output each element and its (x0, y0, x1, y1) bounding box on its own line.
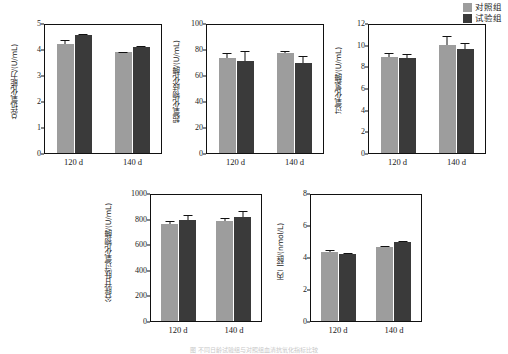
y-axis-label-total-antioxidant-capacity: 总抗氧化能力/(U/mL) (6, 8, 22, 154)
bars-container (311, 195, 421, 321)
y-tick-label: 12 (357, 20, 365, 28)
error-bar (347, 253, 348, 254)
error-bar (83, 34, 84, 35)
error-bar (407, 54, 408, 58)
y-tick-label: 1000 (131, 190, 147, 198)
error-bar (224, 218, 225, 222)
bars-container (45, 25, 161, 153)
error-bar (123, 52, 124, 53)
bar-wrapper (237, 25, 254, 153)
y-axis-label-text: 谷胱甘肽过氧化物酶/(U/mL) (103, 203, 114, 302)
plot-area-superoxide-dismutase (206, 24, 324, 154)
plot-area-malondialdehyde (310, 194, 422, 322)
y-tick-label: 20 (195, 124, 203, 132)
figure-caption: 图 不同日龄试验组与对照组血清抗氧化指标比较 (0, 345, 508, 354)
error-bar (141, 46, 142, 47)
x-tick-label: 120 d (226, 157, 245, 167)
x-tick-label: 140 d (123, 157, 142, 167)
bar-wrapper (161, 195, 178, 321)
plot-area-total-antioxidant-capacity (44, 24, 162, 154)
y-axis-ticks-superoxide-dismutase: 020406080100 (184, 24, 206, 154)
chart-panel-total-antioxidant-capacity: 总抗氧化能力/(U/mL)012345120 d140 d (6, 8, 164, 176)
x-tick-label: 120 d (328, 325, 347, 335)
x-tick-label: 140 d (285, 157, 304, 167)
y-axis-label-text: 丙二醛/(nmol/L) (275, 223, 286, 280)
x-tick-label: 120 d (168, 325, 187, 335)
bar-wrapper (57, 25, 74, 153)
bar-group (381, 25, 416, 153)
error-bar (242, 211, 243, 217)
error-bar (187, 215, 188, 220)
bar-wrapper (321, 195, 338, 321)
bar-total-antioxidant-capacity-test (75, 35, 92, 153)
bar-group (216, 195, 251, 321)
bar-group (219, 25, 254, 153)
bar-catalase-control (381, 57, 398, 153)
antioxidant-index-figure: 对照组试验组 总抗氧化能力/(U/mL)012345120 d140 d超氧化物… (0, 0, 508, 354)
x-axis-labels-malondialdehyde: 120 d140 d (310, 325, 422, 335)
bar-wrapper (75, 25, 92, 153)
bar-group (321, 195, 356, 321)
bar-wrapper (457, 25, 474, 153)
x-axis-labels-superoxide-dismutase: 120 d140 d (206, 157, 324, 167)
bars-container (207, 25, 323, 153)
bar-wrapper (133, 25, 150, 153)
plot-area-glutathione-peroxidase (150, 194, 262, 322)
bar-wrapper (216, 195, 233, 321)
error-bar (169, 221, 170, 224)
y-axis-ticks-glutathione-peroxidase: 02004006008001000 (128, 194, 150, 322)
chart-panel-catalase: 过氧化氢酶/(U/mL)024681012120 d140 d (330, 8, 502, 176)
error-bar (447, 36, 448, 45)
bar-group (376, 195, 411, 321)
bar-group (439, 25, 474, 153)
y-tick-label: 600 (135, 241, 147, 249)
y-axis-label-superoxide-dismutase: 超氧化物歧化酶/(U/mL) (168, 8, 184, 154)
x-axis-labels-catalase: 120 d140 d (368, 157, 486, 167)
x-axis-labels-glutathione-peroxidase: 120 d140 d (150, 325, 262, 335)
bar-catalase-test (457, 49, 474, 153)
error-bar (303, 56, 304, 64)
x-tick-label: 140 d (384, 325, 403, 335)
x-tick-label: 140 d (224, 325, 243, 335)
bar-total-antioxidant-capacity-test (133, 47, 150, 153)
y-axis-label-catalase: 过氧化氢酶/(U/mL) (330, 8, 346, 154)
bar-group (161, 195, 196, 321)
y-tick-label: 60 (195, 72, 203, 80)
error-bar (329, 250, 330, 251)
y-tick-label: 200 (135, 292, 147, 300)
y-tick-label: 100 (191, 20, 203, 28)
bar-wrapper (399, 25, 416, 153)
bar-malondialdehyde-control (376, 247, 393, 321)
bar-total-antioxidant-capacity-control (57, 44, 74, 153)
chart-panel-malondialdehyde: 丙二醛/(nmol/L)02468120 d140 d (272, 182, 432, 348)
error-bar (65, 40, 66, 43)
x-axis-labels-total-antioxidant-capacity: 120 d140 d (44, 157, 162, 167)
bar-catalase-test (399, 58, 416, 153)
bar-malondialdehyde-control (321, 252, 338, 321)
y-axis-label-text: 超氧化物歧化酶/(U/mL) (171, 40, 182, 123)
y-axis-label-glutathione-peroxidase: 谷胱甘肽过氧化物酶/(U/mL) (100, 182, 116, 322)
bar-wrapper (439, 25, 456, 153)
bar-wrapper (376, 195, 393, 321)
y-axis-label-text: 总抗氧化能力/(U/mL) (9, 44, 20, 119)
y-axis-label-text: 过氧化氢酶/(U/mL) (333, 47, 344, 114)
bar-malondialdehyde-test (394, 242, 411, 321)
bar-wrapper (381, 25, 398, 153)
x-tick-label: 140 d (447, 157, 466, 167)
chart-panel-glutathione-peroxidase: 谷胱甘肽过氧化物酶/(U/mL)02004006008001000120 d14… (100, 182, 272, 348)
y-tick-label: 80 (195, 46, 203, 54)
bar-wrapper (277, 25, 294, 153)
bar-group (277, 25, 312, 153)
y-axis-ticks-total-antioxidant-capacity: 012345 (22, 24, 44, 154)
bar-malondialdehyde-test (339, 254, 356, 321)
bar-wrapper (295, 25, 312, 153)
bar-catalase-control (439, 45, 456, 153)
bar-wrapper (179, 195, 196, 321)
y-tick-label: 400 (135, 267, 147, 275)
bar-wrapper (219, 25, 236, 153)
y-tick-label: 10 (357, 42, 365, 50)
bar-glutathione-peroxidase-control (216, 221, 233, 321)
y-axis-ticks-malondialdehyde: 02468 (288, 194, 310, 322)
y-tick-label: 40 (195, 98, 203, 106)
bar-wrapper (234, 195, 251, 321)
